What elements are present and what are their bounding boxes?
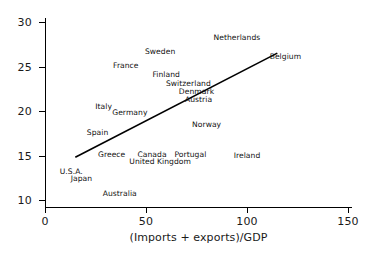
point-label-spain: Spain	[87, 129, 108, 137]
point-label-germany: Germany	[112, 109, 147, 117]
y-tick-label-10: 10	[8, 195, 32, 206]
point-label-japan: Japan	[71, 175, 92, 183]
x-axis-title: (Imports + exports)/GDP	[45, 232, 352, 244]
point-label-sweden: Sweden	[145, 48, 175, 56]
point-label-netherlands: Netherlands	[213, 34, 260, 42]
x-tick-0	[45, 207, 46, 213]
x-tick-label-0: 0	[25, 216, 65, 227]
y-tick-label-15: 15	[8, 151, 32, 162]
point-label-norway: Norway	[192, 121, 221, 129]
x-tick-50	[146, 207, 147, 213]
y-tick-30	[39, 22, 45, 23]
point-label-finland: Finland	[152, 71, 179, 79]
y-tick-10	[39, 200, 45, 201]
y-tick-label-20: 20	[8, 106, 32, 117]
point-label-italy: Italy	[95, 103, 112, 111]
point-label-united-kingdom: United Kingdom	[129, 158, 191, 166]
scatter-chart: 1015202530 050100150 NetherlandsSwedenBe…	[0, 0, 370, 256]
x-tick-label-100: 100	[227, 216, 267, 227]
point-label-austria: Austria	[185, 96, 212, 104]
x-axis-line	[45, 207, 352, 208]
point-label-greece: Greece	[98, 151, 125, 159]
x-tick-label-150: 150	[328, 216, 368, 227]
x-tick-label-50: 50	[126, 216, 166, 227]
point-label-ireland: Ireland	[234, 152, 261, 160]
y-tick-label-25: 25	[8, 62, 32, 73]
y-tick-label-30: 30	[8, 17, 32, 28]
point-label-australia: Australia	[103, 190, 137, 198]
y-axis-line	[45, 18, 46, 207]
point-label-france: France	[113, 62, 139, 70]
y-tick-20	[39, 111, 45, 112]
x-tick-100	[247, 207, 248, 213]
x-tick-150	[348, 207, 349, 213]
y-tick-25	[39, 67, 45, 68]
point-label-belgium: Belgium	[270, 53, 301, 61]
y-tick-15	[39, 156, 45, 157]
